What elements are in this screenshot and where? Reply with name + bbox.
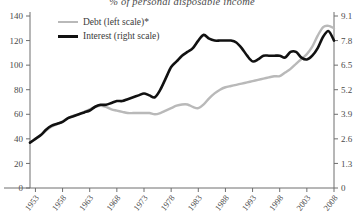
series-group [30, 26, 334, 143]
series-line-debt [30, 26, 334, 143]
x-axis-tick-label: 1953 [23, 193, 41, 213]
legend-label-debt: Debt (left scale)* [83, 17, 149, 28]
chart-plot-area: 020406080100120140 01.32.63.95.26.57.89.… [0, 0, 364, 220]
left-axis: 020406080100120140 [10, 11, 31, 193]
x-axis-tick-label: 1958 [50, 193, 68, 213]
right-axis-tick-label: 6.5 [341, 60, 353, 70]
x-axis-tick-label: 1963 [77, 193, 95, 213]
legend-label-interest: Interest (right scale) [83, 31, 160, 42]
legend-swatch-interest-icon [58, 35, 78, 38]
x-axis-tick-label: 2008 [321, 193, 339, 213]
x-axis-tick-label: 1998 [267, 193, 285, 213]
x-axis-tick-label: 1978 [158, 193, 176, 213]
x-axis: 1953195819631968197319781983198819931998… [4, 188, 340, 213]
chart-legend: Debt (left scale)* Interest (right scale… [58, 16, 160, 42]
left-axis-tick-label: 140 [10, 11, 24, 21]
left-axis-tick-label: 120 [10, 36, 24, 46]
right-axis-tick-label: 2.6 [341, 134, 353, 144]
legend-item-debt: Debt (left scale)* [58, 16, 160, 28]
left-axis-tick-label: 100 [10, 60, 24, 70]
x-axis-tick-label: 2003 [294, 193, 312, 213]
left-axis-tick-label: 40 [14, 134, 24, 144]
right-axis-tick-label: 7.8 [341, 36, 353, 46]
right-axis-tick-label: 0 [341, 183, 346, 193]
left-axis-tick-label: 20 [14, 159, 24, 169]
legend-swatch-debt-icon [58, 21, 78, 23]
x-axis-tick-label: 1988 [213, 193, 231, 213]
left-axis-tick-label: 80 [14, 85, 24, 95]
legend-item-interest: Interest (right scale) [58, 30, 160, 42]
x-axis-tick-label: 1968 [104, 193, 122, 213]
right-axis-tick-label: 1.3 [341, 159, 353, 169]
x-axis-tick-label: 1973 [131, 193, 149, 213]
chart-container: % of personal disposable income 02040608… [0, 0, 364, 220]
series-line-interest [30, 31, 334, 143]
x-axis-tick-label: 1993 [240, 193, 258, 213]
right-axis-tick-label: 5.2 [341, 85, 352, 95]
right-axis-tick-label: 3.9 [341, 109, 353, 119]
x-axis-tick-label: 1983 [186, 193, 204, 213]
right-axis-tick-label: 9.1 [341, 11, 352, 21]
left-axis-tick-label: 60 [14, 109, 24, 119]
right-axis: 01.32.63.95.26.57.89.1 [334, 11, 353, 193]
